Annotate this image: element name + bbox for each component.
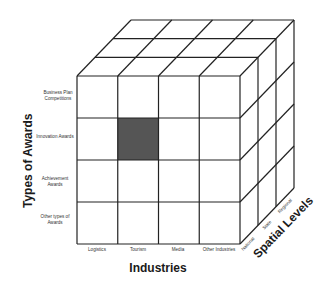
industry-label-media: Media <box>172 247 185 252</box>
industry-label-logistics: Logistics <box>88 247 107 252</box>
cube-grid <box>77 20 294 244</box>
award-label-business-plan: Business Plan <box>43 90 73 95</box>
award-label-innovation: Innovation Awards <box>36 134 74 139</box>
industry-label-other: Other Industries <box>203 247 236 252</box>
award-label-other-2: Awards <box>47 220 63 225</box>
award-cube-diagram: Business Plan Competitions Innovation Aw… <box>0 0 327 285</box>
y-axis-title: Types of Awards <box>21 113 35 208</box>
award-label-other: Other types of <box>41 214 71 219</box>
industry-labels: Logistics Tourism Media Other Industries <box>88 247 236 252</box>
award-label-achievement-2: Awards <box>47 182 63 187</box>
award-type-labels: Business Plan Competitions Innovation Aw… <box>36 90 74 225</box>
highlighted-cell <box>118 118 159 160</box>
industry-label-tourism: Tourism <box>130 247 146 252</box>
award-label-business-plan-2: Competitions <box>45 96 73 101</box>
award-label-achievement: Achievement <box>42 176 69 181</box>
x-axis-title: Industries <box>129 261 187 275</box>
